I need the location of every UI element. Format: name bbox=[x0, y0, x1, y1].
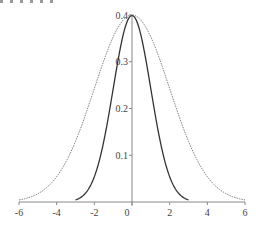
x-tick-label: 6 bbox=[243, 207, 248, 218]
x-tick-label: -6 bbox=[15, 207, 23, 218]
x-tick-label: -2 bbox=[90, 207, 98, 218]
y-tick-label: 0.2 bbox=[116, 103, 129, 114]
x-tick-label: 2 bbox=[167, 207, 172, 218]
density-chart: -6-4-20246 0.10.20.30.4 bbox=[0, 0, 259, 226]
y-tick-label: 0.1 bbox=[116, 150, 129, 161]
x-tick-label: 0 bbox=[125, 207, 130, 218]
x-ticks: -6-4-20246 bbox=[15, 202, 248, 218]
x-tick-label: 4 bbox=[205, 207, 210, 218]
y-tick-label: 0.4 bbox=[116, 10, 129, 21]
x-tick-label: -4 bbox=[52, 207, 60, 218]
axes: -6-4-20246 0.10.20.30.4 bbox=[15, 10, 248, 219]
